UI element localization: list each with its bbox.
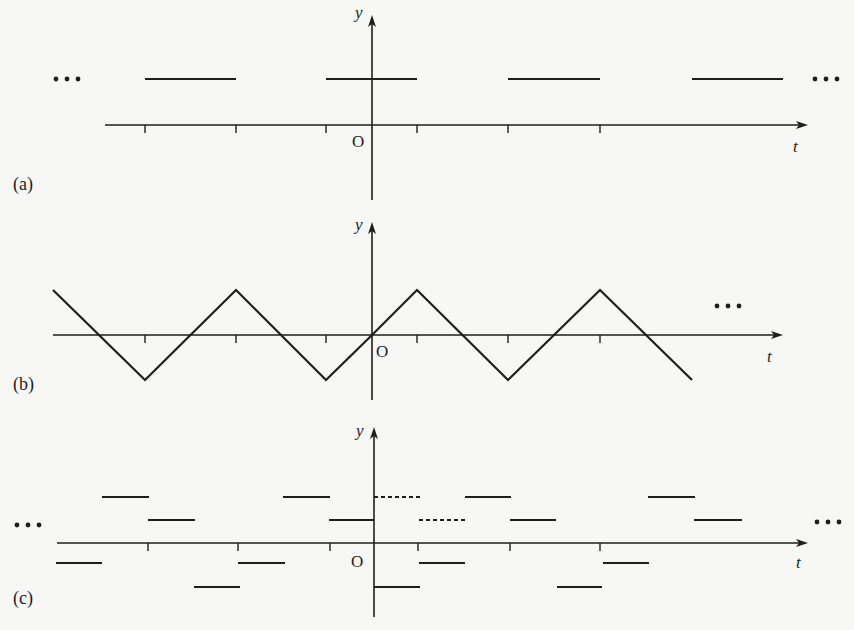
ellipsis-right-icon xyxy=(815,520,820,525)
t-axis-label: t xyxy=(796,553,802,572)
ellipsis-left-icon xyxy=(65,77,70,82)
ellipsis-left-icon xyxy=(76,77,81,82)
origin-label: O xyxy=(376,342,388,361)
t-axis-label: t xyxy=(793,137,799,156)
ellipsis-left-icon xyxy=(15,523,20,528)
ellipsis-right-icon xyxy=(826,520,831,525)
panel-label-a: (a) xyxy=(13,174,33,195)
t-axis-label: t xyxy=(767,347,773,366)
ellipsis-right-icon xyxy=(837,520,842,525)
ellipsis-left-icon xyxy=(54,77,59,82)
ellipsis-left-icon xyxy=(37,523,42,528)
panel-label-b: (b) xyxy=(13,374,34,395)
y-axis-label: y xyxy=(354,421,364,440)
ellipsis-right-icon xyxy=(813,77,818,82)
ellipsis-right-icon xyxy=(726,304,731,309)
ellipsis-right-icon xyxy=(737,304,742,309)
ellipsis-right-icon xyxy=(824,77,829,82)
ellipsis-left-icon xyxy=(26,523,31,528)
y-axis-label: y xyxy=(353,215,363,234)
ellipsis-right-icon xyxy=(835,77,840,82)
origin-label: O xyxy=(352,132,364,151)
panel-label-c: (c) xyxy=(13,588,33,609)
ellipsis-right-icon xyxy=(715,304,720,309)
origin-label: O xyxy=(351,552,363,571)
y-axis-label: y xyxy=(353,3,363,22)
figure-canvas: yOt(a)yOt(b)yOt(c) xyxy=(0,0,854,630)
